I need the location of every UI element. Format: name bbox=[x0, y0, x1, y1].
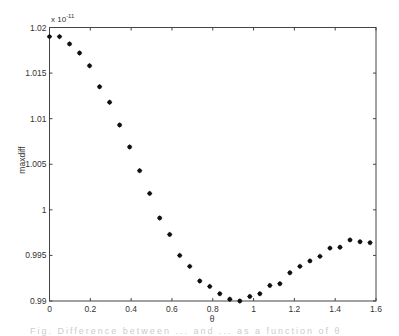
x-tick-label: 0.2 bbox=[84, 304, 96, 314]
y-tick-label: 1.005 bbox=[25, 159, 47, 169]
y-exponent-label: x 10-11 bbox=[51, 13, 75, 24]
x-tick-label: 0.4 bbox=[125, 304, 137, 314]
x-tick-label: 0 bbox=[47, 304, 52, 314]
x-tick-label: 1.6 bbox=[370, 304, 382, 314]
x-tick-label: 0.6 bbox=[166, 304, 178, 314]
figure-caption-fragment: Fig. Difference between ... and ... as a… bbox=[30, 326, 341, 336]
x-tick-label: 1.4 bbox=[329, 304, 341, 314]
x-axis-label: θ bbox=[210, 314, 215, 324]
y-axis-label: maxdiff bbox=[17, 146, 27, 174]
plot-area bbox=[50, 28, 377, 302]
x-tick-label: 1 bbox=[251, 304, 256, 314]
y-tick-label: 0.99 bbox=[30, 296, 47, 306]
x-tick-label: 1.2 bbox=[288, 304, 300, 314]
x-tick-label: 0.8 bbox=[207, 304, 219, 314]
y-tick-label: 1.01 bbox=[30, 114, 47, 124]
scatter-chart: 00.20.40.60.811.21.41.6 0.990.99511.0051… bbox=[0, 0, 399, 336]
y-tick-label: 1.015 bbox=[25, 68, 47, 78]
y-tick-label: 1.02 bbox=[30, 23, 47, 33]
y-tick-label: 1 bbox=[42, 205, 47, 215]
y-tick-label: 0.995 bbox=[25, 250, 47, 260]
